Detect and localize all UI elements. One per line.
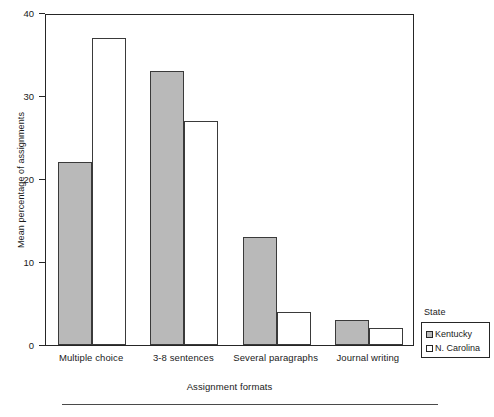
x-axis-title: Assignment formats	[45, 381, 414, 392]
legend-swatch-icon	[426, 331, 433, 338]
bar-chart-figure: Mean percentage of assignments 010203040…	[0, 0, 494, 417]
legend-item: N. Carolina	[426, 341, 489, 355]
y-tick-label: 40	[0, 9, 34, 19]
bar-kentucky-3-8-sentences	[150, 71, 184, 345]
x-category-label: Journal writing	[322, 352, 414, 364]
plot-area	[45, 14, 414, 346]
bar-kentucky-multiple-choice	[58, 162, 92, 345]
y-tick-label: 10	[0, 258, 34, 268]
legend-item: Kentucky	[426, 327, 489, 341]
bottom-rule	[62, 404, 438, 405]
bar-kentucky-journal-writing	[335, 320, 369, 345]
x-category-label: Multiple choice	[45, 352, 137, 364]
legend-title: State	[424, 307, 446, 317]
bar-n-carolina-multiple-choice	[92, 38, 126, 345]
x-category-label: Several paragraphs	[230, 352, 322, 364]
bar-n-carolina-3-8-sentences	[184, 121, 218, 345]
bar-kentucky-several-paragraphs	[243, 237, 277, 345]
bar-n-carolina-several-paragraphs	[277, 312, 311, 345]
y-tick-label: 20	[0, 175, 34, 185]
legend-swatch-icon	[426, 345, 433, 352]
y-tick-label: 0	[0, 341, 34, 351]
x-category-label: 3-8 sentences	[137, 352, 229, 364]
legend-item-label: Kentucky	[435, 329, 472, 340]
y-tick-label: 30	[0, 92, 34, 102]
legend-box: KentuckyN. Carolina	[421, 322, 490, 358]
legend-item-label: N. Carolina	[435, 343, 480, 354]
bar-n-carolina-journal-writing	[369, 328, 403, 345]
